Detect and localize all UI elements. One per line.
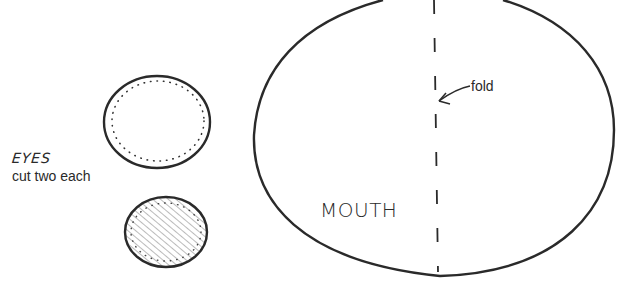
fold-label: fold xyxy=(471,78,494,94)
mouth-label: MOUTH xyxy=(320,198,397,222)
eyes-title: EYES xyxy=(11,150,52,166)
pattern-sheet xyxy=(0,0,623,289)
fold-arrow-icon xyxy=(439,86,470,104)
pupil-shape xyxy=(125,197,207,267)
outer-eye-shape xyxy=(104,76,210,168)
eyes-instruction: cut two each xyxy=(12,168,91,184)
fold-line xyxy=(434,0,438,272)
